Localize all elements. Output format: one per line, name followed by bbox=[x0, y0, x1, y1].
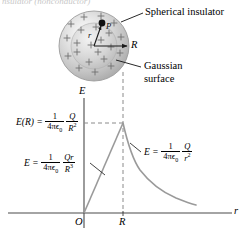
coulomb-denominator-sub: 0 bbox=[55, 168, 58, 174]
coulomb-denominator-sub: 0 bbox=[59, 127, 62, 133]
coulomb-numerator: 1 bbox=[51, 112, 59, 121]
coulomb-numerator: 1 bbox=[167, 142, 175, 151]
label-spherical-insulator: Spherical insulator bbox=[145, 7, 224, 18]
coulomb-denominator-sub: 0 bbox=[175, 157, 178, 163]
formula-inside-charge-fraction: Qr R3 bbox=[62, 153, 75, 174]
formula-peak-charge-fraction: Q R2 bbox=[66, 112, 78, 133]
peak-denominator-sup: 2 bbox=[73, 122, 76, 128]
formula-outside-charge-fraction: Q r2 bbox=[182, 142, 192, 163]
outside-numerator: Q bbox=[182, 142, 192, 151]
label-radius-r: r bbox=[88, 31, 91, 40]
formula-inside-coulomb-fraction: 1 4πϵ0 bbox=[41, 153, 60, 174]
coulomb-numerator: 1 bbox=[47, 153, 55, 162]
formula-outside-field: E = 1 4πϵ0 Q r2 bbox=[144, 142, 193, 163]
formula-inside-lhs: E bbox=[24, 158, 30, 168]
figure-container: nsulator (nonconductor) bbox=[0, 0, 246, 242]
coulomb-denominator: 4πϵ bbox=[163, 151, 175, 161]
leader-spherical-insulator bbox=[121, 13, 143, 22]
origin-label: O bbox=[75, 217, 83, 228]
formula-peak-field: E(R) = 1 4πϵ0 Q R2 bbox=[16, 112, 79, 133]
label-gaussian-surface-line1: Gaussian bbox=[144, 61, 183, 72]
formula-peak-coulomb-fraction: 1 4πϵ0 bbox=[45, 112, 64, 133]
formula-peak-lhs: E(R) bbox=[16, 117, 34, 127]
coulomb-denominator: 4πϵ bbox=[47, 121, 59, 131]
x-axis-label: r bbox=[234, 206, 238, 217]
x-tick-label-R: R bbox=[119, 217, 125, 228]
formula-outside-coulomb-fraction: 1 4πϵ0 bbox=[161, 142, 180, 163]
formula-inside-equals: = bbox=[33, 158, 38, 168]
label-gaussian-surface-line2: surface bbox=[144, 74, 174, 85]
leader-outside-formula bbox=[130, 143, 141, 152]
outside-denominator-sup: 2 bbox=[187, 152, 190, 158]
y-axis-label: E bbox=[79, 86, 85, 97]
formula-peak-equals: = bbox=[37, 117, 42, 127]
label-radius-R-sphere: R bbox=[131, 40, 137, 51]
point-p-marker bbox=[99, 20, 106, 27]
coulomb-denominator: 4πϵ bbox=[43, 162, 55, 172]
curve-inside-linear bbox=[84, 123, 123, 213]
inside-numerator: Qr bbox=[62, 153, 75, 162]
peak-numerator: Q bbox=[67, 112, 77, 121]
curve-outside-inverse-square bbox=[123, 123, 196, 205]
inside-denominator-sup: 3 bbox=[70, 163, 73, 169]
label-point-p: P bbox=[106, 22, 111, 31]
formula-inside-field: E = 1 4πϵ0 Qr R3 bbox=[24, 153, 77, 174]
formula-outside-equals: = bbox=[153, 147, 158, 157]
formula-outside-lhs: E bbox=[144, 147, 150, 157]
